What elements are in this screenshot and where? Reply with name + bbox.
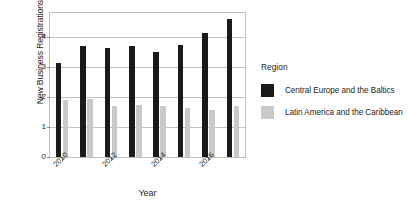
legend-item-label: Central Europe and the Baltics: [285, 86, 395, 95]
y-tick-label: 0: [28, 153, 46, 161]
bar-chart-figure: New Business Registrations, per 1,000 pe…: [0, 0, 409, 208]
bar: [87, 99, 93, 157]
plot-inner: 012342010201220142016: [50, 13, 245, 157]
legend-item-latin-america-and-the-caribbean[interactable]: Latin America and the Caribbean: [261, 101, 407, 123]
y-tick-mark: [47, 157, 50, 158]
bar: [80, 46, 86, 157]
bar-group: [172, 13, 196, 157]
bar: [105, 48, 111, 157]
bar-group: [99, 13, 123, 157]
legend-title: Region: [261, 62, 407, 72]
plot-area: 012342010201220142016: [49, 12, 246, 158]
bar: [153, 52, 159, 157]
bar: [185, 108, 191, 157]
y-tick-label: 3: [28, 63, 46, 71]
bar-group: [221, 13, 245, 157]
y-tick-label: 2: [28, 93, 46, 101]
bar: [202, 33, 208, 158]
legend: Region Central Europe and the Baltics La…: [261, 62, 407, 123]
bar-group: [123, 13, 147, 157]
bar: [112, 106, 118, 157]
bar: [129, 46, 135, 157]
bar: [160, 106, 166, 157]
bar: [63, 100, 69, 157]
bar-group: [74, 13, 98, 157]
bar: [56, 63, 62, 157]
legend-item-label: Latin America and the Caribbean: [285, 108, 403, 117]
bar: [136, 105, 142, 158]
bar-group: [196, 13, 220, 157]
bar: [178, 45, 184, 158]
y-tick-label: 1: [28, 123, 46, 131]
legend-item-central-europe-and-the-baltics[interactable]: Central Europe and the Baltics: [261, 79, 407, 101]
legend-swatch-icon: [261, 84, 274, 97]
bar: [209, 110, 215, 157]
bar-group: [148, 13, 172, 157]
bar-group: [50, 13, 74, 157]
y-tick-label: 4: [28, 33, 46, 41]
bar: [234, 106, 240, 157]
x-axis-title: Year: [49, 188, 246, 198]
legend-swatch-icon: [261, 106, 274, 119]
bar: [227, 19, 233, 157]
